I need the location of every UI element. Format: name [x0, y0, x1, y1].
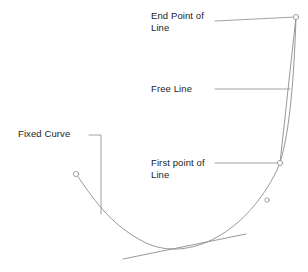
curve-mid-point-marker — [265, 198, 269, 202]
label-fixed-curve: Fixed Curve — [18, 128, 70, 140]
label-end-point-of-line: End Point of Line — [151, 10, 204, 34]
fixed-curve-path — [76, 17, 296, 249]
leader-line-fixed-curve — [89, 135, 101, 214]
leader-line-end-point — [215, 17, 296, 21]
curve-start-point-marker — [73, 171, 78, 176]
label-first-point-of-line: First point of Line — [151, 157, 205, 181]
line-end-point-marker — [293, 14, 298, 19]
line-first-point-marker — [277, 160, 282, 165]
tangent-line-path — [123, 234, 246, 259]
label-free-line: Free Line — [151, 83, 192, 95]
free-line-path — [280, 17, 296, 163]
diagram-canvas: End Point of Line Free Line First point … — [0, 0, 308, 272]
